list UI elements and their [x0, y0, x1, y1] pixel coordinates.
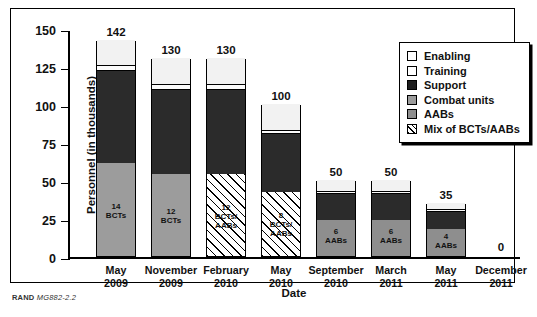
legend-swatch-combat-units-icon — [407, 95, 417, 105]
y-tick-label-0: 0 — [49, 252, 56, 266]
annotation-line-1: 12 — [161, 207, 181, 216]
y-tick-label-150: 150 — [35, 24, 56, 38]
bar-september-2010[interactable]: 6 AABs — [316, 181, 356, 257]
bar-november-2009[interactable]: 12 BCTs — [151, 59, 191, 257]
segment-support — [152, 90, 190, 174]
bar-february-2010[interactable]: 12 BCTs/ AABs — [206, 59, 246, 257]
x-category-december-2011: December 2011 — [465, 264, 537, 289]
bar-annotation-may-2011: 4 AABs — [435, 232, 457, 250]
bar-may-2011[interactable]: 4 AABs — [426, 204, 466, 257]
legend: Enabling Training Support Combat units A… — [399, 42, 530, 143]
bar-total-december-2011: 0 — [498, 241, 504, 253]
y-tick-label-75: 75 — [42, 138, 56, 152]
segment-enabling — [97, 40, 135, 64]
legend-label-support: Support — [424, 79, 466, 91]
annotation-line-1: 8 — [270, 211, 293, 220]
bar-annotation-may-2010: 8 BCTs/ AABs — [270, 211, 293, 238]
y-tick-label-125: 125 — [35, 62, 56, 76]
bar-total-november-2009: 130 — [161, 44, 180, 56]
annotation-line-2: BCTs — [161, 216, 181, 225]
source-note: RAND MG882-2.2 — [12, 293, 76, 302]
bar-total-may-2010: 100 — [271, 90, 290, 102]
y-tick-150: 150 — [61, 31, 70, 32]
bar-group-november-2009: 130 12 BCTs — [151, 29, 191, 257]
bar-total-may-2011: 35 — [440, 189, 453, 201]
legend-swatch-aabs-icon — [407, 109, 417, 119]
legend-label-aabs: AABs — [424, 108, 454, 120]
bar-group-february-2010: 130 12 BCTs/ AABs — [206, 29, 246, 257]
bar-may-2010[interactable]: 8 BCTs/ AABs — [261, 105, 301, 257]
y-tick-75: 75 — [61, 145, 70, 146]
bar-total-september-2010: 50 — [330, 166, 343, 178]
bar-annotation-may-2009: 14 BCTs — [106, 202, 126, 220]
y-tick-0: 0 — [61, 259, 70, 260]
segment-support — [262, 134, 300, 192]
annotation-line-3: AABs — [215, 221, 238, 230]
y-tick-label-50: 50 — [42, 176, 56, 190]
chart-frame: Personnel (in thousands) 150 125 100 75 … — [10, 8, 515, 283]
legend-item-training[interactable]: Training — [407, 64, 520, 79]
annotation-line-2: AABs — [380, 236, 402, 245]
bar-group-september-2010: 50 6 AABs — [316, 29, 356, 257]
segment-enabling — [372, 180, 410, 191]
legend-item-enabling[interactable]: Enabling — [407, 49, 520, 64]
annotation-line-2: BCTs/ — [215, 212, 238, 221]
x-axis-title: Date — [68, 287, 520, 299]
annotation-line-2: BCTs/ — [270, 220, 293, 229]
legend-label-combat-units: Combat units — [424, 94, 494, 106]
annotation-line-2: AABs — [435, 241, 457, 250]
bar-annotation-november-2009: 12 BCTs — [161, 207, 181, 225]
bar-group-may-2009: 142 14 BCTs — [96, 29, 136, 257]
source-note-id: MG882-2.2 — [37, 293, 76, 302]
bar-may-2009[interactable]: 14 BCTs — [96, 41, 136, 257]
annotation-line-1: 6 — [380, 227, 402, 236]
segment-support — [317, 194, 355, 220]
segment-support — [207, 90, 245, 174]
legend-item-mix-bcts-aabs[interactable]: Mix of BCTs/AABs — [407, 122, 520, 137]
segment-enabling — [152, 58, 190, 84]
annotation-line-1: 14 — [106, 202, 126, 211]
segment-support — [97, 71, 135, 164]
bar-annotation-march-2011: 6 AABs — [380, 227, 402, 245]
annotation-line-1: 12 — [215, 203, 238, 212]
legend-label-mix-bcts-aabs: Mix of BCTs/AABs — [424, 123, 520, 135]
bar-march-2011[interactable]: 6 AABs — [371, 181, 411, 257]
legend-label-enabling: Enabling — [424, 50, 470, 62]
legend-item-support[interactable]: Support — [407, 78, 520, 93]
x-category-line-1: December — [465, 264, 537, 277]
y-tick-125: 125 — [61, 69, 70, 70]
bar-annotation-february-2010: 12 BCTs/ AABs — [215, 203, 238, 230]
bar-total-february-2010: 130 — [216, 44, 235, 56]
bar-group-may-2010: 100 8 BCTs/ AABs — [261, 29, 301, 257]
annotation-line-3: AABs — [270, 229, 293, 238]
annotation-line-1: 4 — [435, 232, 457, 241]
annotation-line-1: 6 — [325, 227, 347, 236]
legend-label-training: Training — [424, 65, 467, 77]
bar-total-may-2009: 142 — [106, 26, 125, 38]
legend-swatch-training-icon — [407, 66, 417, 76]
y-tick-label-25: 25 — [42, 214, 56, 228]
legend-item-combat-units[interactable]: Combat units — [407, 93, 520, 108]
segment-enabling — [317, 180, 355, 191]
bar-annotation-september-2010: 6 AABs — [325, 227, 347, 245]
bar-total-march-2011: 50 — [385, 166, 398, 178]
source-note-prefix: RAND — [12, 293, 34, 302]
legend-swatch-support-icon — [407, 80, 417, 90]
annotation-line-2: BCTs — [106, 211, 126, 220]
segment-enabling — [262, 104, 300, 130]
y-tick-label-100: 100 — [35, 100, 56, 114]
segment-support — [372, 194, 410, 220]
legend-swatch-enabling-icon — [407, 51, 417, 61]
legend-item-aabs[interactable]: AABs — [407, 107, 520, 122]
y-tick-100: 100 — [61, 107, 70, 108]
y-tick-50: 50 — [61, 183, 70, 184]
segment-support — [427, 212, 465, 229]
annotation-line-2: AABs — [325, 236, 347, 245]
y-tick-25: 25 — [61, 221, 70, 222]
segment-enabling — [207, 58, 245, 84]
legend-swatch-mix-bcts-aabs-icon — [407, 124, 417, 134]
